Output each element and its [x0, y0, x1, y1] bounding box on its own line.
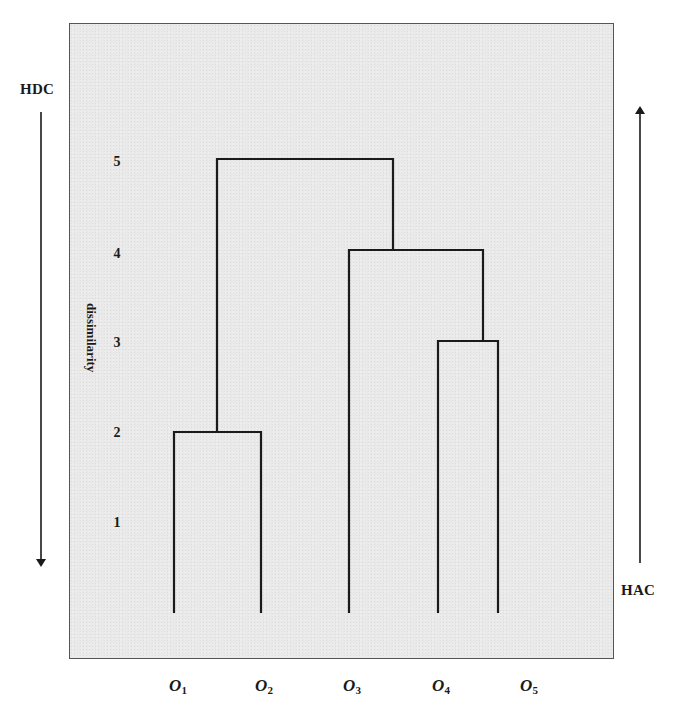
hdc-label: HDC — [20, 81, 54, 98]
merge-o1-o2 — [174, 432, 261, 612]
dendrogram-lines — [0, 0, 690, 712]
tick-label-2: 2 — [109, 425, 125, 441]
hac-label: HAC — [621, 582, 655, 599]
merge-o4-o5 — [438, 341, 498, 612]
tick-label-5: 5 — [109, 154, 125, 170]
leaf-label-o3: O3 — [332, 676, 372, 696]
leaf-label-o2: O2 — [244, 676, 284, 696]
merge-o3-o45 — [349, 250, 483, 612]
tick-label-4: 4 — [109, 246, 125, 262]
leaf-label-o5: O5 — [509, 676, 549, 696]
leaf-label-o4: O4 — [421, 676, 461, 696]
leaf-label-o1: O1 — [158, 676, 198, 696]
tick-label-3: 3 — [109, 335, 125, 351]
merge-root — [217, 159, 393, 432]
tick-label-1: 1 — [109, 515, 125, 531]
axis-title-dissimilarity: dissimilarity — [83, 303, 99, 372]
